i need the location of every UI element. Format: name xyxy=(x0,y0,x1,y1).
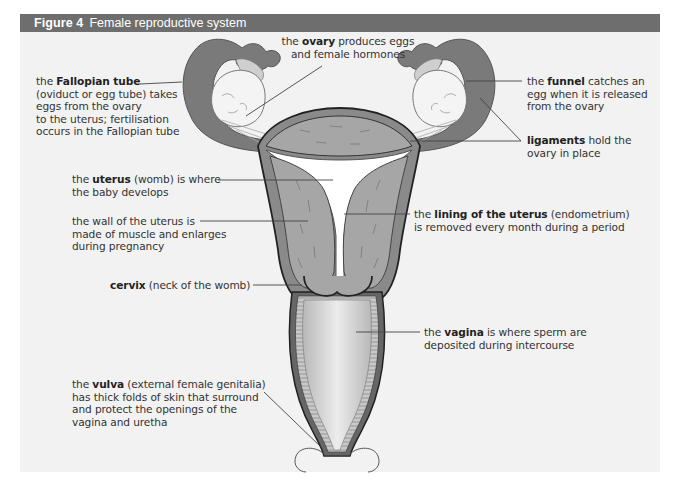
label-ligaments: ligaments hold the ovary in place xyxy=(527,134,631,159)
label-vulva: the vulva (external female genitalia) ha… xyxy=(72,378,266,428)
left-ovary xyxy=(212,70,266,126)
right-ovary xyxy=(413,70,467,126)
label-fallopian-tube: the Fallopian tube (oviduct or egg tube)… xyxy=(36,75,179,138)
label-uterus-wall: the wall of the uterus is made of muscle… xyxy=(72,215,226,253)
label-ovary: the ovary produces eggs and female hormo… xyxy=(268,35,428,60)
label-cervix: cervix (neck of the womb) xyxy=(110,279,250,292)
label-uterus: the uterus (womb) is where the baby deve… xyxy=(72,173,221,198)
label-funnel: the funnel catches an egg when it is rel… xyxy=(527,75,648,113)
label-vagina: the vagina is where sperm are deposited … xyxy=(424,326,587,351)
label-lining: the lining of the uterus (endometrium) i… xyxy=(414,208,630,233)
vagina xyxy=(289,276,384,456)
uterus xyxy=(258,108,420,298)
cervix xyxy=(304,276,372,296)
